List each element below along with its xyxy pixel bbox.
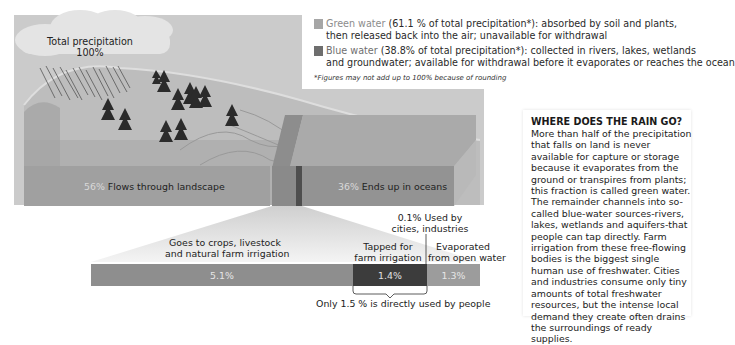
cities-label-1: 0.1% Used by	[390, 212, 470, 223]
blue-water-swatch	[314, 46, 323, 56]
blue-water-detail-2: and groundwater; available for withdrawa…	[326, 57, 735, 69]
oceans-pct: 36%	[338, 181, 359, 192]
crops-label-2: and natural farm irrigation	[165, 248, 285, 259]
legend-footnote: *Figures may not add up to 100% because …	[314, 73, 506, 85]
blue-water-name: Blue water	[326, 45, 378, 56]
flows-text: Flows through landscape	[108, 181, 225, 192]
info-title: WHERE DOES THE RAIN GO?	[531, 116, 682, 127]
blue-water-detail: (38.8% of total precipitation*): collect…	[378, 45, 696, 56]
cities-label-2: cities, industries	[390, 223, 470, 234]
green-water-detail: (61.1 % of total precipitation*): absorb…	[385, 18, 677, 29]
direct-use-label: Only 1.5 % is directly used by people	[316, 298, 466, 309]
evaporated-label-1: Evaporated	[428, 241, 498, 252]
oceans-text: Ends up in oceans	[362, 181, 447, 192]
evaporated-label: Evaporated from open water	[428, 241, 498, 263]
crops-label-1: Goes to crops, livestock	[165, 237, 285, 248]
crops-value: 5.1%	[210, 270, 234, 281]
flows-label: 56% Flows through landscape	[84, 181, 225, 192]
flows-pct: 56%	[84, 181, 105, 192]
evaporated-value: 1.3%	[442, 270, 466, 281]
evaporated-label-2: from open water	[428, 252, 498, 263]
green-water-detail-2: then released back into the air; unavail…	[326, 30, 607, 42]
precipitation-value: 100%	[40, 47, 140, 58]
oceans-label: 36% Ends up in oceans	[338, 181, 447, 192]
green-water-swatch	[314, 19, 323, 29]
total-precipitation-label: Total precipitation 100%	[40, 36, 140, 58]
legend: Green water (61.1 % of total precipitati…	[302, 13, 692, 89]
crops-bar: 5.1%	[91, 264, 353, 286]
farm-bar: 1.4%	[353, 264, 427, 286]
farm-label-2: farm irrigation	[352, 252, 424, 263]
evaporated-bar: 1.3%	[427, 264, 480, 286]
green-water-name: Green water	[326, 18, 385, 29]
used-water-strip	[296, 166, 302, 206]
farm-label-1: Tapped for	[352, 241, 424, 252]
blue-water-strip	[272, 166, 299, 206]
info-panel: WHERE DOES THE RAIN GO? More than half o…	[523, 110, 691, 316]
farm-value: 1.4%	[378, 270, 402, 281]
farm-label: Tapped for farm irrigation	[352, 241, 424, 263]
direct-use-bracket	[353, 286, 427, 298]
info-body: More than half of the precipitation that…	[531, 128, 693, 345]
crops-label: Goes to crops, livestock and natural far…	[165, 237, 285, 259]
precipitation-label-text: Total precipitation	[40, 36, 140, 47]
cities-label: 0.1% Used by cities, industries	[390, 212, 470, 234]
